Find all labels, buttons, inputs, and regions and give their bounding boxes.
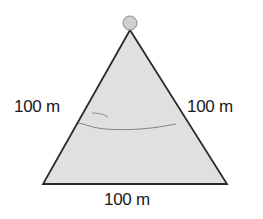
side-label-bottom: 100 m — [104, 191, 150, 208]
side-label-left: 100 m — [14, 98, 60, 115]
apex-marker-circle — [123, 16, 137, 30]
side-label-right: 100 m — [187, 98, 233, 115]
